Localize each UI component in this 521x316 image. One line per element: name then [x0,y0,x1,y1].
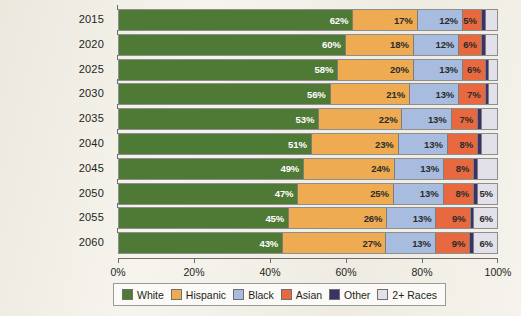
y-axis-tick-label: 2050 [0,187,104,199]
bar-segment-2-races[interactable] [486,10,497,30]
bar-segment-2-races[interactable] [489,60,497,80]
bar-segment-black[interactable]: 13% [410,84,459,104]
bar-segment-hispanic[interactable]: 23% [312,134,399,154]
bar-segment-2-races[interactable] [486,35,497,55]
x-axis-tick-label: 20% [183,266,204,278]
bar-segment-hispanic[interactable]: 18% [346,35,414,55]
bar-segment-white[interactable]: 47% [119,184,298,204]
legend-item-white[interactable]: White [122,289,164,301]
bar-segment-value-label: 51% [288,139,311,150]
bar-segment-value-label: 45% [265,213,288,224]
bar-row[interactable]: 51%23%13%8% [118,133,498,155]
y-axis-tick-mark [117,55,118,60]
bar-segment-hispanic[interactable]: 21% [331,84,410,104]
bar-row[interactable]: 60%18%12%6% [118,34,498,56]
bar-row[interactable]: 49%24%13%8% [118,158,498,180]
bar-segment-value-label: 22% [379,114,402,125]
bar-segment-value-label: 49% [281,163,304,174]
bar-segment-hispanic[interactable]: 26% [289,208,387,228]
bar-segment-hispanic[interactable]: 24% [304,159,395,179]
bar-segment-value-label: 9% [452,213,470,224]
y-axis-tick-label: 2045 [0,162,104,174]
bar-segment-hispanic[interactable]: 22% [319,109,402,129]
bar-segment-value-label: 5% [463,15,481,26]
bar-segment-asian[interactable]: 8% [444,184,475,204]
bar-segment-black[interactable]: 13% [387,208,436,228]
legend-item-asian[interactable]: Asian [281,289,322,301]
bar-segment-black[interactable]: 13% [386,233,436,253]
y-axis-tick-label: 2025 [0,63,104,75]
bar-segment-value-label: 8% [456,163,474,174]
bar-segment-asian[interactable]: 9% [436,233,470,253]
bar-segment-hispanic[interactable]: 17% [353,10,417,30]
bar-segment-asian[interactable]: 6% [459,35,482,55]
bar-segment-hispanic[interactable]: 25% [298,184,393,204]
x-axis-tick-mark [194,258,195,263]
bar-segment-2-races[interactable] [482,109,497,129]
y-axis-tick-mark [117,30,118,35]
bar-segment-hispanic[interactable]: 20% [338,60,414,80]
bar-segment-value-label: 20% [390,64,413,75]
bar-segment-asian[interactable]: 7% [452,109,478,129]
bar-segment-black[interactable]: 13% [402,109,451,129]
bar-segment-asian[interactable]: 8% [444,159,474,179]
y-axis-tick-label: 2015 [0,13,104,25]
bar-segment-white[interactable]: 43% [119,233,283,253]
legend-item-2-races[interactable]: 2+ Races [377,289,437,301]
bar-segment-value-label: 21% [386,89,409,100]
bar-segment-black[interactable]: 12% [414,35,459,55]
bar-segment-value-label: 17% [394,15,417,26]
bar-segment-value-label: 5% [479,188,497,199]
bar-segment-asian[interactable]: 6% [463,60,486,80]
bar-segment-white[interactable]: 62% [119,10,353,30]
bar-segment-hispanic[interactable]: 27% [283,233,386,253]
bar-segment-2-races[interactable] [482,134,497,154]
bar-segment-value-label: 8% [456,188,474,199]
bar-segment-black[interactable]: 13% [399,134,448,154]
bar-segment-white[interactable]: 56% [119,84,331,104]
bar-row[interactable]: 43%27%13%9%6% [118,232,498,254]
legend-item-other[interactable]: Other [329,289,370,301]
legend-item-hispanic[interactable]: Hispanic [171,289,226,301]
legend-label: 2+ Races [392,289,437,301]
bar-segment-asian[interactable]: 8% [448,134,478,154]
bar-segment-white[interactable]: 49% [119,159,304,179]
legend-swatch-hispanic [171,289,182,300]
bar-segment-2-races[interactable]: 6% [474,233,497,253]
bar-segment-2-races[interactable] [478,159,497,179]
legend-swatch-white [122,289,133,300]
bar-segment-asian[interactable]: 9% [436,208,470,228]
x-axis-tick-label: 0% [110,266,125,278]
bar-row[interactable]: 62%17%12%5% [118,9,498,31]
bar-segment-black[interactable]: 13% [394,184,444,204]
bar-segment-value-label: 6% [479,213,497,224]
bar-segment-white[interactable]: 58% [119,60,338,80]
bar-row[interactable]: 56%21%13%7% [118,83,498,105]
bar-row[interactable]: 45%26%13%9%6% [118,207,498,229]
bar-segment-black[interactable]: 13% [395,159,444,179]
bar-row[interactable]: 47%25%13%8%5% [118,183,498,205]
bar-segment-value-label: 13% [439,64,462,75]
y-axis-tick-mark [117,104,118,109]
bar-segment-black[interactable]: 13% [414,60,463,80]
bar-segment-value-label: 13% [413,213,436,224]
bar-segment-asian[interactable]: 5% [463,10,482,30]
bar-segment-value-label: 62% [330,15,353,26]
bar-segment-value-label: 53% [296,114,319,125]
legend-item-black[interactable]: Black [233,289,274,301]
bar-segment-2-races[interactable]: 5% [478,184,497,204]
bar-segment-black[interactable]: 12% [418,10,463,30]
y-axis-tick-mark [117,5,118,10]
bar-row[interactable]: 53%22%13%7% [118,108,498,130]
bar-segment-white[interactable]: 45% [119,208,289,228]
bar-segment-white[interactable]: 51% [119,134,312,154]
chart-legend: WhiteHispanicBlackAsianOther2+ Races [113,283,446,306]
bar-segment-asian[interactable]: 7% [459,84,485,104]
x-axis-tick-mark [497,258,498,263]
bar-row[interactable]: 58%20%13%6% [118,59,498,81]
bar-segment-white[interactable]: 53% [119,109,319,129]
bar-segment-white[interactable]: 60% [119,35,346,55]
bar-segment-2-races[interactable]: 6% [474,208,497,228]
bar-segment-value-label: 12% [435,39,458,50]
bar-segment-2-races[interactable] [489,84,497,104]
